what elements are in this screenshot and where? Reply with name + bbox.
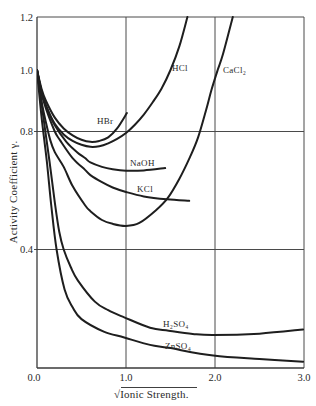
series-label-znso4: ZnSO₄ <box>165 341 191 351</box>
y-axis-label: Activity Coefficient γ. <box>7 140 19 243</box>
y-tick-label: 1.0 <box>20 65 33 76</box>
series-label-h2so4: H₂SO₄ <box>163 319 189 329</box>
chart-canvas: HBrHClCaCl₂NaOHKClH₂SO₄ZnSO₄ 1.21.00.80.… <box>0 0 316 406</box>
y-tick-label: 0.4 <box>20 244 34 255</box>
x-axis-label: √Ionic Strength. <box>114 388 189 400</box>
y-tick-label: 0.8 <box>20 126 33 137</box>
activity-coefficient-chart: HBrHClCaCl₂NaOHKClH₂SO₄ZnSO₄ 1.21.00.80.… <box>0 0 316 406</box>
y-tick-label: 1.2 <box>20 12 33 23</box>
x-tick-label: 2.0 <box>208 372 221 383</box>
series-label-kcl: KCl <box>137 184 153 194</box>
curve-h2so4 <box>37 70 303 335</box>
x-tick-label: 0.0 <box>27 372 40 383</box>
x-tick-label: 1.0 <box>119 372 132 383</box>
curves <box>37 17 303 362</box>
series-label-hcl: HCl <box>172 63 188 73</box>
series-label-cacl2: CaCl₂ <box>223 65 246 75</box>
series-label-hbr: HBr <box>97 116 113 126</box>
series-labels: HBrHClCaCl₂NaOHKClH₂SO₄ZnSO₄ <box>97 63 246 351</box>
curve-znso4 <box>37 70 303 362</box>
series-label-naoh: NaOH <box>130 158 155 168</box>
gridlines <box>34 17 304 368</box>
curve-hcl <box>37 17 187 147</box>
curve-kcl <box>37 70 189 201</box>
x-tick-label: 3.0 <box>297 372 310 383</box>
